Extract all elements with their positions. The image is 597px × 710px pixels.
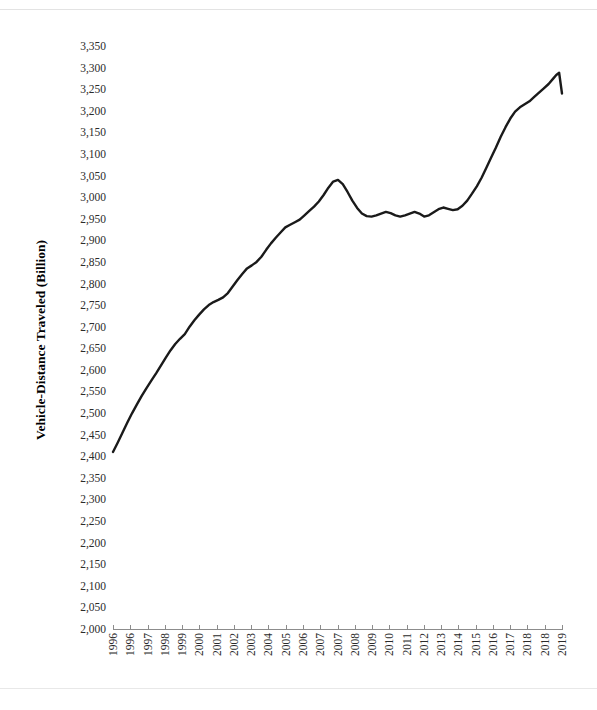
x-axis-tick-label: 2002 [228, 633, 240, 656]
x-axis-tick-label: 2019 [556, 633, 568, 656]
y-axis-tick-label: 3,300 [80, 62, 106, 75]
y-axis-tick-labels: 3,3503,3003,2503,2003,1503,1003,0503,000… [80, 40, 106, 636]
x-axis-tick-label: 1998 [159, 633, 171, 656]
x-axis-tick-label: 2010 [383, 633, 395, 656]
x-axis-tick-label: 2014 [452, 633, 464, 656]
y-axis-tick-label: 3,000 [80, 191, 106, 204]
x-axis-tick-label: 2001 [211, 633, 223, 656]
x-axis-tick-label: 2009 [366, 633, 378, 656]
x-axis-tick-label: 2007 [332, 633, 344, 656]
x-axis-ticks [114, 625, 563, 630]
x-axis-tick-label: 2012 [418, 633, 430, 656]
x-axis-tick-label: 2018 [539, 633, 551, 656]
x-axis-tick-labels: 1996199619971998199920002001200220032004… [107, 633, 568, 656]
y-axis-tick-label: 2,600 [80, 364, 106, 377]
y-axis-tick-label: 2,850 [80, 256, 106, 269]
x-axis-tick-label: 2004 [262, 633, 274, 656]
x-axis-tick-label: 2011 [401, 633, 413, 656]
y-axis-tick-label: 3,200 [80, 105, 106, 118]
y-axis-tick-label: 2,550 [80, 385, 106, 398]
y-axis-title: Vehicle-Distance Traveled (Billion) [33, 240, 48, 440]
y-axis-tick-label: 2,150 [80, 558, 106, 571]
x-axis-tick-label: 2003 [245, 633, 257, 656]
line-chart: 3,3503,3003,2503,2003,1503,1003,0503,000… [0, 0, 597, 710]
x-axis-tick-label: 2005 [280, 633, 292, 656]
y-axis-tick-label: 3,100 [80, 148, 106, 161]
chart-figure: 3,3503,3003,2503,2003,1503,1003,0503,000… [0, 0, 597, 710]
x-axis-tick-label: 2006 [297, 633, 309, 656]
x-axis-tick-label: 1996 [107, 633, 119, 656]
y-axis-tick-label: 2,950 [80, 213, 106, 226]
y-axis-tick-label: 2,050 [80, 601, 106, 614]
x-axis-tick-label: 2018 [521, 633, 533, 656]
y-axis-tick-label: 2,400 [80, 450, 106, 463]
x-axis-tick-label: 2015 [470, 633, 482, 656]
y-axis-tick-label: 2,200 [80, 537, 106, 550]
y-axis-tick-label: 2,450 [80, 429, 106, 442]
y-axis-tick-label: 3,250 [80, 83, 106, 96]
y-axis-tick-label: 2,700 [80, 321, 106, 334]
y-axis-tick-label: 3,050 [80, 170, 106, 183]
y-axis-tick-label: 2,350 [80, 472, 106, 485]
y-axis-tick-label: 2,300 [80, 493, 106, 506]
y-axis-tick-label: 2,000 [80, 623, 106, 636]
x-axis-tick-label: 2016 [487, 633, 499, 656]
x-axis-tick-label: 2013 [435, 633, 447, 656]
y-axis-tick-label: 2,650 [80, 342, 106, 355]
x-axis-tick-label: 1997 [142, 633, 154, 656]
x-axis-tick-label: 1999 [176, 633, 188, 656]
y-axis-tick-label: 3,350 [80, 40, 106, 53]
x-axis-tick-label: 2008 [349, 633, 361, 656]
x-axis-tick-label: 2000 [193, 633, 205, 656]
y-axis-tick-label: 2,500 [80, 407, 106, 420]
x-axis-tick-label: 1996 [124, 633, 136, 656]
y-axis-tick-label: 2,900 [80, 234, 106, 247]
y-axis-tick-label: 2,100 [80, 580, 106, 593]
y-axis-tick-label: 2,800 [80, 278, 106, 291]
data-series-line [113, 73, 562, 452]
y-axis-tick-label: 2,250 [80, 515, 106, 528]
y-axis-tick-label: 3,150 [80, 126, 106, 139]
x-axis-tick-label: 2007 [314, 633, 326, 656]
x-axis-tick-label: 2017 [504, 633, 516, 656]
y-axis-tick-label: 2,750 [80, 299, 106, 312]
